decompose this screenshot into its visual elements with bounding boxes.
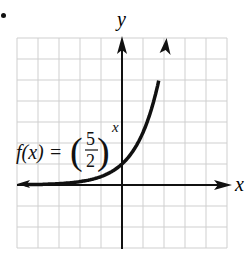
exponent: x xyxy=(111,119,119,135)
right-paren: ) xyxy=(97,130,110,173)
graph: x y f(x) = ( 5 2 ) x xyxy=(0,0,246,254)
x-axis-label: x xyxy=(234,173,244,195)
fraction-numerator: 5 xyxy=(86,129,95,149)
curve-arrow-top-icon xyxy=(160,38,171,55)
fraction-denominator: 2 xyxy=(86,151,95,171)
function-label: f(x) = ( 5 2 ) x xyxy=(16,119,119,173)
function-lhs: f(x) = xyxy=(16,141,62,164)
y-axis-label: y xyxy=(115,8,126,31)
left-paren: ( xyxy=(70,130,83,173)
